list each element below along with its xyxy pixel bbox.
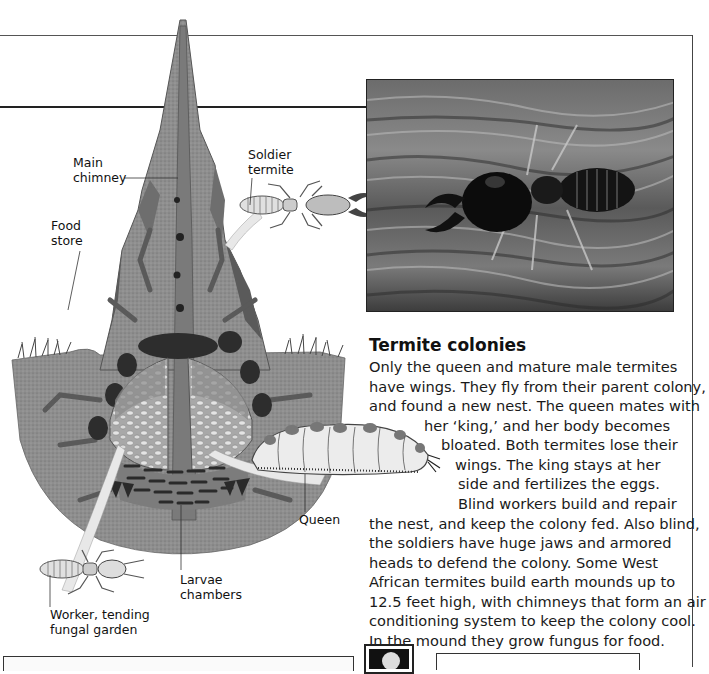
label-line: chimney	[73, 170, 126, 185]
body-line: African termites build earth mounds up t…	[369, 572, 675, 592]
label-worker: Worker, tending fungal garden	[50, 607, 150, 637]
label-line: chambers	[180, 587, 242, 602]
label-line: fungal garden	[50, 622, 150, 637]
body-line: the nest, and keep the colony fed. Also …	[369, 514, 700, 534]
body-line: wings. The king stays at her	[455, 455, 661, 475]
label-queen: Queen	[299, 512, 340, 527]
label-line: Food	[51, 218, 83, 233]
soldier-termite-drawing	[240, 181, 376, 229]
body-line: and found a new nest. The queen mates wi…	[369, 396, 700, 416]
section-heading: Termite colonies	[369, 335, 526, 355]
label-line: store	[51, 233, 83, 248]
label-main-chimney: Main chimney	[73, 155, 126, 185]
photo-image	[367, 80, 674, 312]
globe-icon	[382, 652, 400, 669]
label-line: Main	[73, 155, 126, 170]
label-line: Soldier	[248, 147, 294, 162]
body-line: heads to defend the colony. Some West	[369, 553, 658, 573]
body-line: bloated. Both termites lose their	[441, 435, 678, 455]
label-line: termite	[248, 162, 294, 177]
next-section-box	[3, 656, 354, 671]
label-soldier-termite: Soldier termite	[248, 147, 294, 177]
label-line: Worker, tending	[50, 607, 150, 622]
feature-icon-box	[364, 644, 414, 674]
label-line: Larvae	[180, 572, 242, 587]
feature-caption-box	[436, 653, 640, 670]
body-line: Blind workers build and repair	[458, 494, 677, 514]
worker-termite-drawing	[40, 550, 144, 594]
page-frame-right	[692, 35, 693, 667]
body-line: 12.5 feet high, with chimneys that form …	[369, 592, 706, 612]
soldier-termite-photo	[366, 79, 674, 312]
body-line: her ‘king,’ and her body becomes	[424, 416, 670, 436]
body-line: conditioning system to keep the colony c…	[369, 611, 696, 631]
feature-icon	[369, 649, 409, 669]
body-line: the soldiers have huge jaws and armored	[369, 533, 672, 553]
label-food-store: Food store	[51, 218, 83, 248]
label-line: Queen	[299, 512, 340, 527]
body-line: have wings. They fly from their parent c…	[369, 377, 706, 397]
body-line: side and fertilizes the eggs.	[458, 474, 660, 494]
body-line: Only the queen and mature male termites	[369, 357, 677, 377]
label-larvae-chambers: Larvae chambers	[180, 572, 242, 602]
